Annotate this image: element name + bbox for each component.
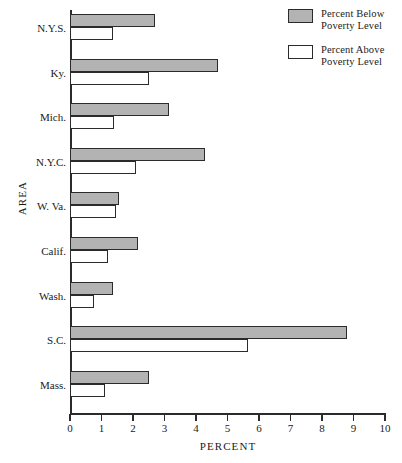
- bar-below-poverty: [70, 59, 218, 72]
- legend-item-above: Percent Above Poverty Level: [288, 44, 400, 67]
- legend-swatch-above-icon: [288, 45, 313, 59]
- legend-swatch-below-icon: [288, 9, 313, 23]
- x-axis-tick: [290, 414, 291, 421]
- bar-above-poverty: [70, 250, 108, 263]
- bar-above-poverty: [70, 384, 105, 397]
- category-label: W. Va.: [0, 200, 66, 212]
- category-label: S.C.: [0, 334, 66, 346]
- bar-below-poverty: [70, 14, 155, 27]
- x-axis-tick: [101, 414, 102, 421]
- bar-below-poverty: [70, 148, 205, 161]
- bar-below-poverty: [70, 282, 113, 295]
- x-axis-tick: [69, 414, 70, 421]
- poverty-bar-chart: Percent Below Poverty Level Percent Abov…: [0, 0, 402, 463]
- x-axis-tick-label: 7: [280, 422, 302, 434]
- legend-label-above: Percent Above Poverty Level: [321, 44, 384, 67]
- bar-above-poverty: [70, 161, 136, 174]
- x-axis-tick-label: 3: [154, 422, 176, 434]
- x-axis-title: PERCENT: [70, 440, 386, 452]
- category-label: Wash.: [0, 290, 66, 302]
- category-label: N.Y.C.: [0, 156, 66, 168]
- x-axis-tick: [164, 414, 165, 421]
- bar-below-poverty: [70, 326, 347, 339]
- bar-above-poverty: [70, 295, 94, 308]
- category-label: N.Y.S.: [0, 22, 66, 34]
- x-axis-tick: [321, 414, 322, 421]
- y-axis-title: AREA: [16, 168, 28, 228]
- bar-above-poverty: [70, 116, 114, 129]
- x-axis-tick-label: 5: [217, 422, 239, 434]
- category-label: Ky.: [0, 67, 66, 79]
- bar-below-poverty: [70, 192, 119, 205]
- x-axis-tick: [132, 414, 133, 421]
- category-label: Mass.: [0, 379, 66, 391]
- x-axis-tick-label: 0: [59, 422, 81, 434]
- x-axis-tick: [258, 414, 259, 421]
- x-axis-tick-label: 8: [311, 422, 333, 434]
- chart-legend: Percent Below Poverty Level Percent Abov…: [288, 8, 400, 80]
- category-label: Mich.: [0, 111, 66, 123]
- x-axis-tick-label: 6: [248, 422, 270, 434]
- bar-above-poverty: [70, 205, 116, 218]
- x-axis-tick: [227, 414, 228, 421]
- x-axis-tick: [353, 414, 354, 421]
- legend-item-below: Percent Below Poverty Level: [288, 8, 400, 31]
- x-axis-tick: [195, 414, 196, 421]
- bar-above-poverty: [70, 339, 248, 352]
- x-axis-tick-label: 1: [91, 422, 113, 434]
- category-label: Calif.: [0, 245, 66, 257]
- x-axis-tick-label: 4: [185, 422, 207, 434]
- bar-above-poverty: [70, 27, 113, 40]
- x-axis-tick-label: 2: [122, 422, 144, 434]
- x-axis-tick-label: 9: [343, 422, 365, 434]
- bar-below-poverty: [70, 237, 138, 250]
- bar-below-poverty: [70, 371, 149, 384]
- x-axis-tick: [384, 414, 385, 421]
- legend-label-below: Percent Below Poverty Level: [321, 8, 384, 31]
- bar-below-poverty: [70, 103, 169, 116]
- x-axis-tick-label: 10: [374, 422, 396, 434]
- bar-above-poverty: [70, 72, 149, 85]
